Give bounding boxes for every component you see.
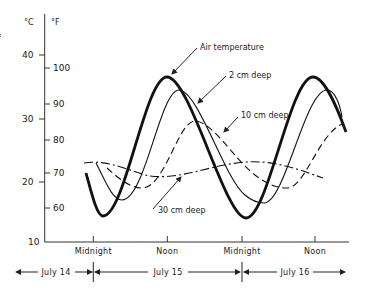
- series-group: [84, 77, 346, 218]
- series-2cm-line: [96, 90, 342, 203]
- celsius-ticks: 40 30 20 10: [22, 50, 45, 247]
- series-30cm-line: [84, 162, 323, 178]
- c-tick-20: 20: [22, 177, 34, 187]
- f-tick-70: 70: [53, 168, 65, 178]
- annotation-air-temperature: Air temperature: [200, 43, 264, 52]
- x-ticks: Midnight Noon Midnight Noon: [75, 236, 326, 256]
- annotations: Air temperature 2 cm deep 10 cm deep 30 …: [153, 43, 288, 215]
- c-tick-30: 30: [22, 114, 34, 124]
- day-spans: July 14 July 15 July 16: [16, 262, 345, 282]
- c-tick-10: 10: [28, 237, 40, 247]
- x-tick-midnight-1: Midnight: [75, 247, 112, 256]
- day-label-july-15: July 15: [152, 268, 182, 277]
- fahrenheit-unit-label: °F: [51, 18, 60, 27]
- annotation-30cm: 30 cm deep: [158, 206, 205, 215]
- f-tick-100: 100: [53, 63, 70, 73]
- f-tick-80: 80: [53, 135, 65, 145]
- annotation-10cm: 10 cm deep: [241, 111, 288, 120]
- f-tick-60: 60: [53, 203, 65, 213]
- day-label-july-14: July 14: [40, 268, 70, 277]
- x-tick-noon-2: Noon: [304, 247, 326, 256]
- x-tick-midnight-2: Midnight: [223, 247, 260, 256]
- edge-text-fragment: f: [0, 34, 1, 43]
- x-tick-noon-1: Noon: [156, 247, 178, 256]
- fahrenheit-ticks: 100 90 80 70 60: [45, 63, 71, 213]
- day-label-july-16: July 16: [279, 268, 309, 277]
- celsius-unit-label: °C: [24, 18, 34, 27]
- annotation-2cm: 2 cm deep: [229, 71, 271, 80]
- c-tick-40: 40: [22, 50, 34, 60]
- f-tick-90: 90: [53, 99, 65, 109]
- soil-temperature-chart: f °C °F 40 30 20 10 100 90 80 70 60 Midn…: [0, 0, 365, 296]
- series-air-temperature-line: [86, 77, 346, 218]
